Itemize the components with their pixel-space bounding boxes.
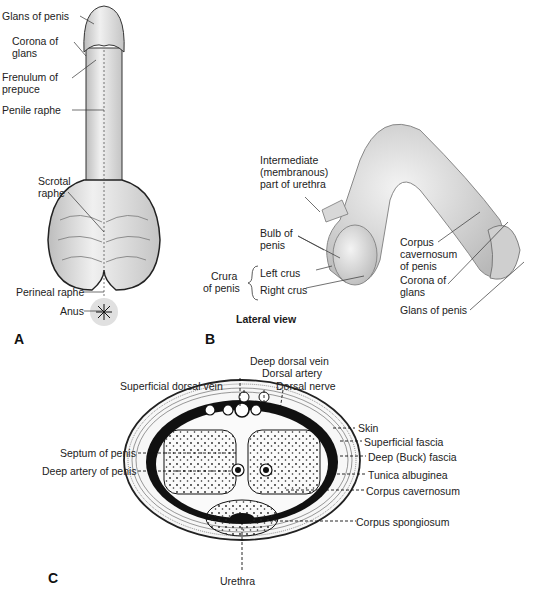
label-crura-line2: of penis [203, 282, 240, 294]
label-tunica-albuginea: Tunica albuginea [368, 469, 448, 481]
label-left-crus: Left crus [260, 267, 300, 279]
label-deep-dorsal-vein: Deep dorsal vein [250, 355, 329, 367]
panel-letter-a: A [14, 331, 24, 347]
panel-c-drawing [124, 378, 366, 572]
label-frenulum-line1: Frenulum of [2, 71, 58, 83]
label-dorsal-artery: Dorsal artery [262, 367, 322, 379]
label-deep-buck-fascia: Deep (Buck) fascia [368, 451, 457, 463]
label-corpus-cavernosum-b-line2: cavernosum [400, 248, 457, 260]
label-intermediate-line3: part of urethra [260, 178, 326, 190]
label-septum-of-penis: Septum of penis [60, 447, 136, 459]
panel-letter-c: C [48, 570, 58, 586]
label-bulb-line2: penis [260, 239, 285, 251]
label-urethra: Urethra [220, 575, 255, 587]
label-right-crus: Right crus [260, 284, 307, 296]
label-superficial-dorsal-vein: Superficial dorsal vein [120, 380, 223, 392]
caption-lateral-view: Lateral view [236, 313, 296, 325]
label-scrotal-raphe-line1: Scrotal [38, 175, 71, 187]
label-corpus-cavernosum-b-line3: of penis [400, 260, 437, 272]
panel-b-drawing [248, 124, 524, 310]
label-glans-of-penis-b: Glans of penis [400, 304, 467, 316]
label-deep-artery-of-penis: Deep artery of penis [42, 465, 137, 477]
label-bulb-line1: Bulb of [260, 227, 293, 239]
label-superficial-fascia: Superficial fascia [364, 436, 443, 448]
label-corona-of-glans-a-line2: glans [12, 47, 37, 59]
label-crura-line1: Crura [211, 270, 237, 282]
label-corona-of-glans-b-line1: Corona of [400, 274, 446, 286]
label-intermediate-line2: (membranous) [260, 166, 328, 178]
label-corpus-cavernosum-b-line1: Corpus [400, 236, 434, 248]
panel-letter-b: B [205, 331, 215, 347]
label-intermediate-line1: Intermediate [260, 154, 318, 166]
label-anus: Anus [60, 305, 84, 317]
label-corpus-cavernosum-c: Corpus cavernosum [366, 485, 460, 497]
label-scrotal-raphe-line2: raphe [38, 187, 65, 199]
label-corona-of-glans-a-line1: Corona of [12, 35, 58, 47]
label-glans-of-penis-a: Glans of penis [2, 10, 69, 22]
label-dorsal-nerve: Dorsal nerve [276, 380, 336, 392]
label-corona-of-glans-b-line2: glans [400, 286, 425, 298]
label-perineal-raphe: Perineal raphe [16, 286, 84, 298]
label-frenulum-line2: prepuce [2, 83, 40, 95]
panel-a-drawing [48, 6, 160, 326]
label-skin: Skin [358, 422, 378, 434]
label-corpus-spongiosum: Corpus spongiosum [356, 516, 449, 528]
label-penile-raphe: Penile raphe [2, 104, 61, 116]
